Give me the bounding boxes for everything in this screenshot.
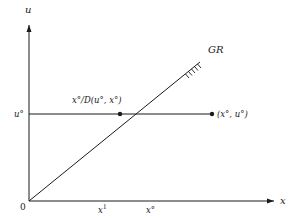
y-axis-label: u bbox=[25, 4, 31, 15]
x0-tick-label: x° bbox=[146, 205, 155, 215]
point-x0-u0 bbox=[210, 112, 214, 116]
gr-hatching bbox=[186, 64, 202, 78]
gr-label: GR bbox=[208, 44, 224, 55]
diagram-canvas: u x 0 GR x°/D(u°, x°) (x°, u°) u° x1 x° bbox=[0, 0, 300, 222]
gr-ray bbox=[29, 62, 200, 201]
u0-tick-label: u° bbox=[14, 109, 24, 119]
x1-tick-label: x1 bbox=[98, 203, 107, 215]
x1-superscript: 1 bbox=[103, 203, 107, 211]
intersection-label: x°/D(u°, x°) bbox=[72, 95, 122, 105]
x-axis-label: x bbox=[280, 195, 286, 206]
intersection-point bbox=[118, 112, 122, 116]
origin-label: 0 bbox=[20, 202, 26, 212]
point-x0-u0-label: (x°, u°) bbox=[217, 109, 248, 119]
